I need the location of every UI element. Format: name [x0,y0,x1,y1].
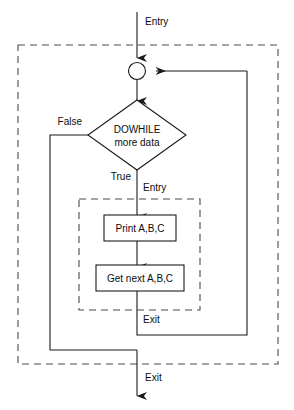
false-branch-label: False [58,116,83,127]
true-branch-label: True [111,171,132,182]
inner-entry-label: Entry [143,182,166,193]
dowhile-decision-line1: DOWHILE [114,124,161,135]
false-branch-path [50,135,137,350]
inner-exit-label: Exit [143,314,160,325]
outer-exit-label: Exit [145,372,162,383]
flowchart-svg: DOWHILE more data Print A,B,C Get next A… [0,0,294,410]
inner-exit-loopback-path [137,71,247,335]
dowhile-decision-line2: more data [114,137,159,148]
print-process-label: Print A,B,C [116,223,165,234]
get-next-process-label: Get next A,B,C [107,273,173,284]
outer-entry-label: Entry [145,16,168,27]
dowhile-decision [88,100,186,170]
loop-junction [129,63,146,80]
flowchart-canvas: DOWHILE more data Print A,B,C Get next A… [0,0,294,410]
